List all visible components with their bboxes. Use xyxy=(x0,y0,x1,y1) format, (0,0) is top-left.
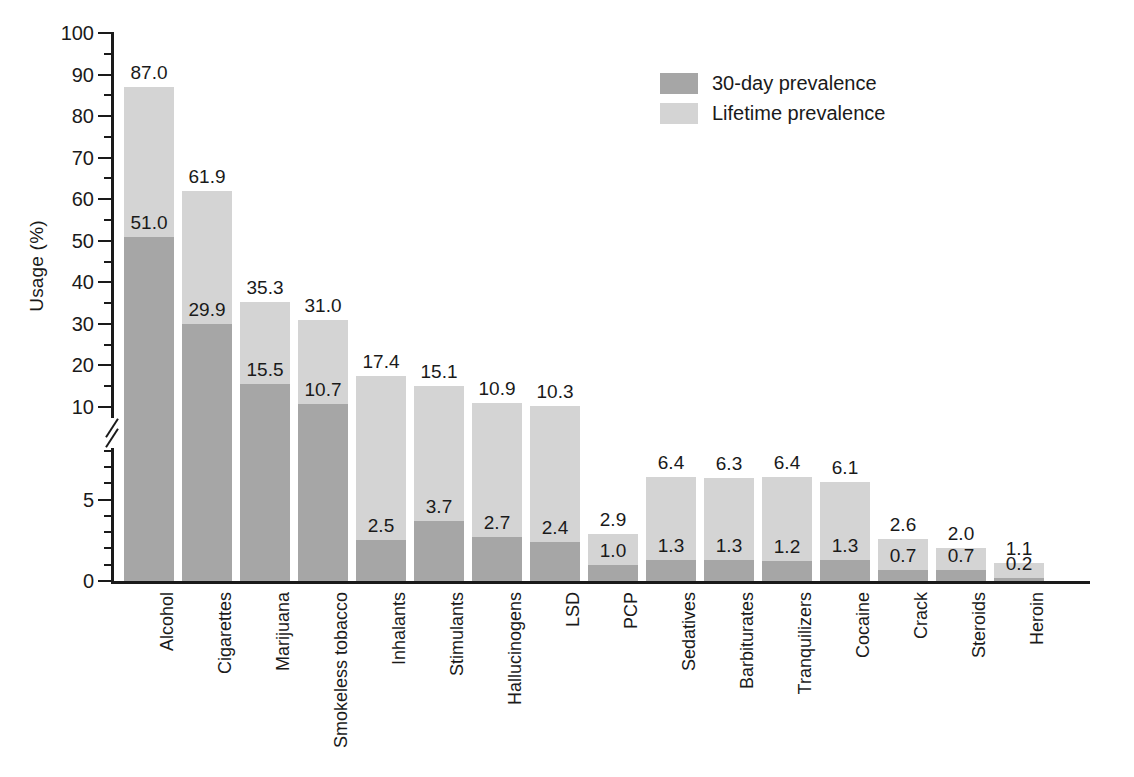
y-tick-minor xyxy=(104,385,114,387)
x-axis-label: Heroin xyxy=(1028,592,1046,777)
y-tick-minor xyxy=(104,94,114,96)
y-tick-label: 70 xyxy=(34,148,94,168)
bar-group[interactable]: 1.10.2 xyxy=(994,20,1044,581)
y-tick-label: 30 xyxy=(34,314,94,334)
x-axis-label: Crack xyxy=(912,592,930,777)
y-tick-label: 50 xyxy=(34,231,94,251)
y-tick-minor xyxy=(104,344,114,346)
bar-segment-30-day[interactable] xyxy=(936,570,986,581)
bar-group[interactable]: 10.32.4 xyxy=(530,20,580,581)
bar-value-label-30-day: 51.0 xyxy=(118,213,180,232)
bar-segment-30-day[interactable] xyxy=(646,560,696,581)
x-axis-label: Cocaine xyxy=(854,592,872,777)
bar-group[interactable]: 2.91.0 xyxy=(588,20,638,581)
x-axis-label: Steroids xyxy=(970,592,988,777)
y-tick-minor xyxy=(104,219,114,221)
bar-group[interactable]: 2.60.7 xyxy=(878,20,928,581)
x-axis-label: LSD xyxy=(564,592,582,777)
y-tick-minor xyxy=(104,302,114,304)
bar-segment-30-day[interactable] xyxy=(472,537,522,581)
bar-segment-30-day[interactable] xyxy=(298,404,348,581)
y-tick-label: 5 xyxy=(34,490,94,510)
bar-segment-30-day[interactable] xyxy=(820,560,870,581)
y-tick-major xyxy=(98,32,114,34)
bar-group[interactable]: 35.315.5 xyxy=(240,20,290,581)
bar-segment-30-day[interactable] xyxy=(240,384,290,581)
bar-group[interactable]: 2.00.7 xyxy=(936,20,986,581)
y-tick-major xyxy=(98,580,114,582)
bar-value-label-lifetime: 6.3 xyxy=(698,454,760,473)
y-tick-minor xyxy=(104,564,114,566)
y-tick-major xyxy=(98,115,114,117)
y-tick-major xyxy=(98,406,114,408)
bar-value-label-30-day: 1.3 xyxy=(698,536,760,555)
y-tick-major xyxy=(98,281,114,283)
legend-item-lifetime[interactable]: Lifetime prevalence xyxy=(660,98,885,128)
y-tick-minor xyxy=(104,136,114,138)
y-tick-label: 10 xyxy=(34,397,94,417)
y-tick-major xyxy=(98,364,114,366)
y-tick-label: 90 xyxy=(34,65,94,85)
bar-segment-30-day[interactable] xyxy=(762,561,812,581)
y-tick-major xyxy=(98,323,114,325)
bar-value-label-lifetime: 2.0 xyxy=(930,524,992,543)
bar-value-label-30-day: 2.5 xyxy=(350,516,412,535)
y-tick-label: 60 xyxy=(34,189,94,209)
x-axis-label: Barbiturates xyxy=(738,592,756,777)
bar-group[interactable]: 31.010.7 xyxy=(298,20,348,581)
x-axis-label: PCP xyxy=(622,592,640,777)
bar-group[interactable]: 15.13.7 xyxy=(414,20,464,581)
bar-group[interactable]: 10.92.7 xyxy=(472,20,522,581)
x-axis-label: Alcohol xyxy=(158,592,176,777)
y-tick-minor xyxy=(104,515,114,517)
bar-value-label-30-day: 3.7 xyxy=(408,497,470,516)
x-axis-label: Stimulants xyxy=(448,592,466,777)
bar-segment-30-day[interactable] xyxy=(878,570,928,581)
y-tick-minor xyxy=(104,177,114,179)
bar-value-label-30-day: 29.9 xyxy=(176,300,238,319)
bar-value-label-30-day: 0.2 xyxy=(988,554,1050,573)
x-axis-label: Inhalants xyxy=(390,592,408,777)
y-tick-major xyxy=(98,499,114,501)
bar-value-label-30-day: 0.7 xyxy=(930,546,992,565)
bar-segment-30-day[interactable] xyxy=(588,565,638,581)
y-tick-minor xyxy=(104,547,114,549)
bar-segment-30-day[interactable] xyxy=(124,237,174,581)
bar-value-label-lifetime: 15.1 xyxy=(408,362,470,381)
y-tick-major xyxy=(98,198,114,200)
bar-value-label-lifetime: 17.4 xyxy=(350,352,412,371)
bar-segment-30-day[interactable] xyxy=(704,560,754,581)
y-tick-label: 80 xyxy=(34,106,94,126)
bar-value-label-lifetime: 2.6 xyxy=(872,515,934,534)
bar-segment-30-day[interactable] xyxy=(182,324,232,581)
bar-group[interactable]: 17.42.5 xyxy=(356,20,406,581)
y-tick-minor xyxy=(104,53,114,55)
bar-value-label-lifetime: 6.1 xyxy=(814,458,876,477)
bar-group[interactable]: 61.929.9 xyxy=(182,20,232,581)
bar-value-label-30-day: 1.2 xyxy=(756,537,818,556)
x-axis-label: Sedatives xyxy=(680,592,698,777)
legend-label: Lifetime prevalence xyxy=(712,103,885,123)
bar-value-label-lifetime: 61.9 xyxy=(176,167,238,186)
y-tick-minor xyxy=(104,261,114,263)
plot-area: 87.051.061.929.935.315.531.010.717.42.51… xyxy=(114,20,1090,581)
legend-item-30-day[interactable]: 30-day prevalence xyxy=(660,68,885,98)
legend-swatch-icon xyxy=(660,73,698,94)
y-tick-label: 0 xyxy=(34,571,94,591)
bar-value-label-30-day: 0.7 xyxy=(872,546,934,565)
x-axis-label: Cigarettes xyxy=(216,592,234,777)
y-tick-minor xyxy=(104,466,114,468)
x-axis-line xyxy=(111,581,1090,584)
bar-value-label-30-day: 1.0 xyxy=(582,541,644,560)
bar-segment-30-day[interactable] xyxy=(530,542,580,581)
bar-group[interactable]: 87.051.0 xyxy=(124,20,174,581)
bar-segment-30-day[interactable] xyxy=(414,521,464,581)
bar-value-label-lifetime: 10.9 xyxy=(466,379,528,398)
bar-value-label-30-day: 2.7 xyxy=(466,513,528,532)
bar-segment-30-day[interactable] xyxy=(994,578,1044,581)
bar-value-label-30-day: 2.4 xyxy=(524,518,586,537)
bar-segment-30-day[interactable] xyxy=(356,540,406,581)
bar-value-label-lifetime: 87.0 xyxy=(118,63,180,82)
x-axis-label: Hallucinogens xyxy=(506,592,524,777)
y-tick-label: 20 xyxy=(34,355,94,375)
